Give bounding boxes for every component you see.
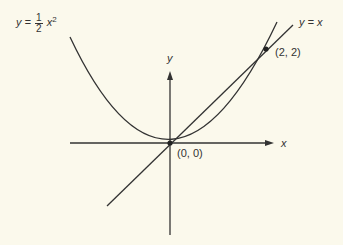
intersection-point: [263, 46, 268, 51]
fraction-denominator: 2: [35, 24, 43, 34]
graph-canvas: [0, 0, 343, 245]
x-axis-arrow-icon: [265, 140, 274, 146]
parabola-label-exponent: 2: [52, 15, 56, 24]
point-label-2-2: (2, 2): [275, 46, 301, 58]
parabola-label-lhs: y =: [16, 16, 31, 28]
point-label-origin: (0, 0): [177, 147, 203, 159]
y-axis-arrow-icon: [167, 71, 173, 80]
parabola-label: y = 12 x2: [16, 13, 57, 34]
line-y-equals-x: [107, 25, 293, 206]
parabola-curve: [70, 22, 277, 139]
origin-point: [167, 140, 172, 145]
x-axis-label: x: [281, 137, 287, 149]
fraction-one-half: 12: [35, 13, 43, 34]
y-axis-label: y: [167, 52, 173, 64]
line-label: y = x: [299, 16, 323, 28]
